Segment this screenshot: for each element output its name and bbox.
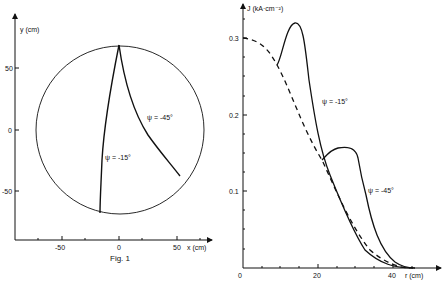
left-plot: y (cm) 50 0 -50 -50 0 50 x (cm) Fig. 1 ψ… bbox=[2, 14, 212, 263]
right-ticks bbox=[243, 19, 412, 268]
left-label-psi15: ψ = -15° bbox=[105, 154, 131, 162]
left-ylabel: y (cm) bbox=[20, 26, 39, 34]
figure-caption: Fig. 1 bbox=[110, 254, 131, 263]
left-ytick-50: 50 bbox=[5, 65, 13, 72]
right-ytick-0.2: 0.2 bbox=[229, 112, 239, 119]
right-label-psi15: ψ = -15° bbox=[322, 98, 348, 106]
right-curve-reference bbox=[243, 38, 410, 268]
right-xlabel: r (cm) bbox=[405, 272, 423, 280]
right-ytick-0.3: 0.3 bbox=[229, 35, 239, 42]
right-xtick-40: 40 bbox=[388, 272, 396, 279]
left-label-psi45: ψ = -45° bbox=[147, 114, 173, 122]
right-ytick-0.1: 0.1 bbox=[229, 188, 239, 195]
boundary-circle bbox=[36, 46, 204, 214]
figure-canvas: y (cm) 50 0 -50 -50 0 50 x (cm) Fig. 1 ψ… bbox=[0, 0, 443, 281]
left-xtick-0: 0 bbox=[117, 244, 121, 251]
left-ytick-0: 0 bbox=[8, 127, 12, 134]
left-xtick-neg50: -50 bbox=[55, 244, 65, 251]
left-curve-psi15 bbox=[100, 45, 119, 213]
right-curve-psi15 bbox=[277, 23, 413, 268]
left-ytick-neg50: -50 bbox=[2, 188, 12, 195]
right-xtick-0: 0 bbox=[238, 272, 242, 279]
right-label-psi45: ψ = -45° bbox=[368, 187, 394, 195]
right-plot: J (kA·cm⁻²) 0.3 0.2 0.1 0 20 40 r (cm) ψ… bbox=[229, 4, 441, 280]
right-xtick-20: 20 bbox=[313, 272, 321, 279]
right-curve-psi45 bbox=[322, 147, 415, 268]
left-xlabel: x (cm) bbox=[187, 244, 206, 252]
left-xtick-50: 50 bbox=[173, 244, 181, 251]
right-ylabel: J (kA·cm⁻²) bbox=[247, 5, 283, 13]
